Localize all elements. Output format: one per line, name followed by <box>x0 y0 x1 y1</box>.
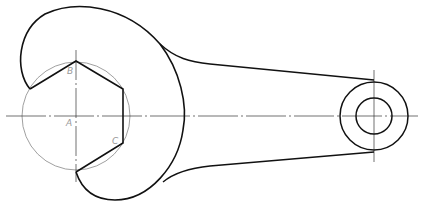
label-c: C <box>112 136 118 146</box>
label-a: A <box>66 118 72 128</box>
hexagon-opening <box>30 61 123 172</box>
handle-bottom-edge <box>163 152 374 182</box>
drawing-svg <box>0 0 422 207</box>
label-b: B <box>67 66 73 76</box>
handle-top-edge <box>160 44 374 80</box>
jaw-outline <box>21 7 185 200</box>
wrench-drawing: A B C <box>0 0 422 207</box>
